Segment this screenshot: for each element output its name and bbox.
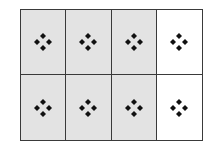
grid-cell-unshaded [157, 75, 202, 140]
four-diamond-cluster-icon [34, 99, 52, 117]
grid-cell-shaded [66, 75, 111, 140]
four-diamond-cluster-icon [170, 33, 188, 51]
four-diamond-cluster-icon [79, 99, 97, 117]
four-diamond-cluster-icon [79, 33, 97, 51]
four-diamond-cluster-icon [125, 99, 143, 117]
grid-cell-shaded [112, 10, 157, 75]
grid-cell-shaded [112, 75, 157, 140]
four-diamond-cluster-icon [170, 99, 188, 117]
grid-cell-shaded [21, 75, 66, 140]
four-diamond-cluster-icon [34, 33, 52, 51]
four-diamond-cluster-icon [125, 33, 143, 51]
shaded-grid-diagram [20, 9, 203, 141]
grid-cell-shaded [21, 10, 66, 75]
grid-cell-unshaded [157, 10, 202, 75]
grid-cell-shaded [66, 10, 111, 75]
